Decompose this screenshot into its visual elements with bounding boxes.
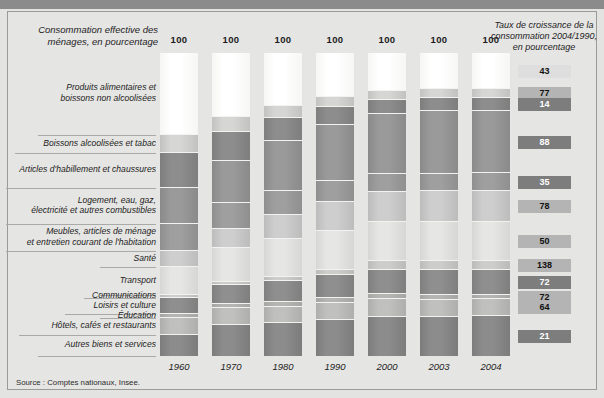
bar-segment[interactable] [160, 298, 198, 315]
bar-segment[interactable] [420, 222, 458, 261]
bar-segment[interactable] [368, 114, 406, 173]
bar-segment[interactable] [368, 192, 406, 222]
bar-segment[interactable] [212, 117, 250, 132]
bar-segment[interactable] [316, 320, 354, 356]
bar-segment[interactable] [160, 335, 198, 356]
stacked-bar[interactable] [264, 53, 302, 356]
stacked-bar[interactable] [316, 53, 354, 356]
bar-segment[interactable] [212, 248, 250, 281]
bar-segment[interactable] [316, 275, 354, 298]
bar-segment[interactable] [368, 222, 406, 261]
bar-segment[interactable] [316, 97, 354, 107]
bar-total-label: 100 [212, 34, 250, 45]
bar-segment[interactable] [420, 191, 458, 222]
bar-segment[interactable] [472, 261, 510, 270]
bar-segment[interactable] [160, 224, 198, 251]
x-axis-tick-label: 1980 [264, 361, 302, 372]
bar-segment[interactable] [212, 161, 250, 203]
bar-segment[interactable] [212, 132, 250, 161]
bar-segment[interactable] [420, 270, 458, 295]
bar-segment[interactable] [420, 300, 458, 317]
bar-segment[interactable] [160, 251, 198, 266]
bar-segment[interactable] [420, 174, 458, 192]
bar-segment[interactable] [264, 53, 302, 106]
bar-segment[interactable] [420, 89, 458, 98]
bar-segment[interactable] [212, 308, 250, 325]
bar-segment[interactable] [212, 53, 250, 117]
source-note: Source : Comptes nationaux, Insee. [16, 378, 140, 387]
bar-segment[interactable] [316, 181, 354, 202]
label-leader-line [15, 153, 156, 154]
bar-segment[interactable] [212, 285, 250, 305]
x-axis-tick-label: 1970 [212, 361, 250, 372]
page-title: Consommation effective des ménages, en p… [28, 24, 158, 48]
category-label: Loisirs et culture [6, 300, 156, 311]
bar-segment[interactable] [316, 53, 354, 97]
bar-segment[interactable] [472, 53, 510, 89]
bar-total-label: 100 [368, 34, 406, 45]
bar-segment[interactable] [160, 53, 198, 135]
bar-segment[interactable] [160, 153, 198, 188]
bar-segment[interactable] [264, 118, 302, 141]
bar-segment[interactable] [368, 270, 406, 295]
growth-rate-badge: 78 [518, 200, 571, 213]
bar-segment[interactable] [212, 203, 250, 229]
category-label: Articles d'habillement et chaussures [6, 164, 156, 175]
bar-segment[interactable] [472, 191, 510, 222]
bar-segment[interactable] [420, 261, 458, 270]
bar-segment[interactable] [264, 106, 302, 118]
growth-rate-badge: 64 [518, 301, 571, 314]
bar-segment[interactable] [316, 125, 354, 181]
label-leader-line [100, 267, 156, 268]
bar-total-label: 100 [316, 34, 354, 45]
bar-segment[interactable] [160, 188, 198, 224]
bar-segment[interactable] [368, 174, 406, 192]
bar-segment[interactable] [420, 111, 458, 173]
bar-segment[interactable] [264, 141, 302, 191]
bar-segment[interactable] [316, 231, 354, 270]
bar-segment[interactable] [472, 222, 510, 261]
category-label: Autres biens et services [6, 339, 156, 350]
bar-segment[interactable] [212, 325, 250, 356]
bar-segment[interactable] [472, 299, 510, 316]
growth-rate-badge: 35 [518, 176, 571, 189]
bar-segment[interactable] [472, 89, 510, 98]
bar-segment[interactable] [368, 299, 406, 317]
bar-segment[interactable] [160, 267, 198, 296]
stacked-bar[interactable] [160, 53, 198, 356]
stacked-bar[interactable] [420, 53, 458, 356]
bar-segment[interactable] [264, 191, 302, 215]
stacked-bar[interactable] [472, 53, 510, 356]
bar-segment[interactable] [316, 303, 354, 320]
bar-segment[interactable] [472, 98, 510, 111]
bar-segment[interactable] [368, 100, 406, 115]
bar-segment[interactable] [264, 281, 302, 302]
growth-rate-badge: 72 [518, 276, 571, 289]
bar-segment[interactable] [368, 91, 406, 100]
bar-segment[interactable] [316, 202, 354, 231]
bar-segment[interactable] [472, 316, 510, 356]
category-label: Hôtels, cafés et restaurants [6, 320, 156, 331]
bar-segment[interactable] [368, 317, 406, 356]
bar-segment[interactable] [472, 173, 510, 191]
label-leader-line [38, 135, 156, 136]
bar-segment[interactable] [264, 239, 302, 277]
category-label: Logement, eau, gaz, électricité et autre… [6, 195, 156, 216]
bar-segment[interactable] [160, 135, 198, 153]
bar-segment[interactable] [368, 53, 406, 91]
bar-segment[interactable] [264, 307, 302, 324]
category-label: Boissons alcoolisées et tabac [6, 138, 156, 149]
bar-segment[interactable] [212, 229, 250, 249]
bar-segment[interactable] [472, 270, 510, 295]
bar-segment[interactable] [420, 317, 458, 356]
stacked-bar[interactable] [212, 53, 250, 356]
bar-segment[interactable] [420, 98, 458, 111]
bar-segment[interactable] [316, 107, 354, 125]
bar-segment[interactable] [472, 111, 510, 173]
bar-segment[interactable] [264, 323, 302, 356]
bar-segment[interactable] [264, 215, 302, 239]
bar-segment[interactable] [420, 53, 458, 89]
bar-segment[interactable] [160, 318, 198, 335]
bar-segment[interactable] [368, 261, 406, 269]
stacked-bar[interactable] [368, 53, 406, 356]
